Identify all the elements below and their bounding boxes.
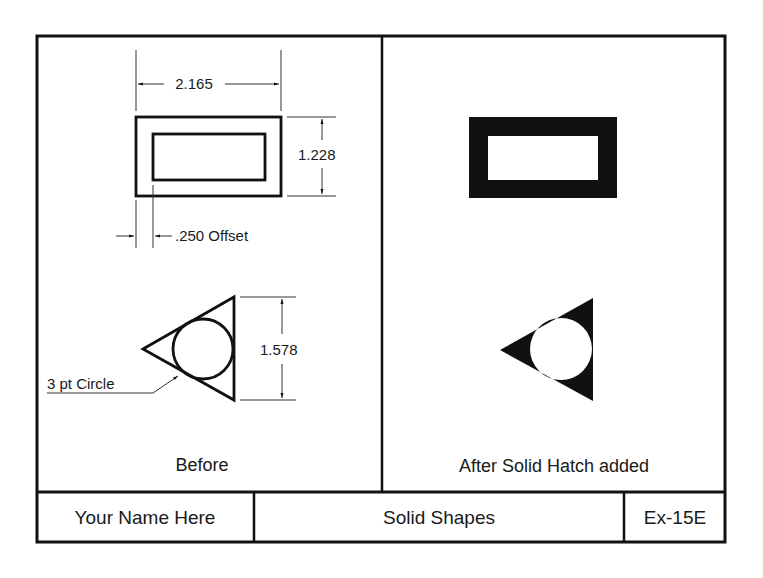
before-caption: Before (175, 455, 228, 475)
solid-hatched-rectangle (469, 117, 617, 198)
title-block: Your Name Here Solid Shapes Ex-15E (75, 507, 707, 528)
student-name: Your Name Here (75, 507, 216, 528)
leader-note-label: 3 pt Circle (47, 375, 115, 392)
exercise-number: Ex-15E (644, 507, 706, 528)
drawing-title: Solid Shapes (383, 507, 495, 528)
drawing-sheet: 2.165 1.228 .250 Offset 1. (0, 0, 763, 578)
offset-dimension-label: .250 Offset (175, 227, 249, 244)
outlined-triangle (143, 297, 234, 400)
after-caption: After Solid Hatch added (459, 456, 649, 476)
solid-hatched-triangle (500, 298, 593, 401)
after-panel: After Solid Hatch added (459, 117, 649, 476)
triangle-height-label: 1.578 (260, 341, 298, 358)
width-dimension-label: 2.165 (175, 75, 213, 92)
offset-dimension (116, 185, 172, 248)
before-panel: 2.165 1.228 .250 Offset 1. (47, 50, 336, 475)
outlined-rectangle (136, 117, 281, 196)
height-dimension-label: 1.228 (298, 146, 336, 163)
